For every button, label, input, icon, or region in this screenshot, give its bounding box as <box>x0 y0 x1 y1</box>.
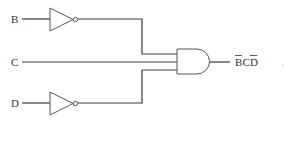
input-label-b: B <box>11 13 18 25</box>
output-label-d: D <box>250 56 258 68</box>
and-gate-icon <box>177 49 209 74</box>
output-label-c: C <box>243 56 250 68</box>
output-label: B C D <box>235 56 258 69</box>
not-gate-b-icon <box>50 8 73 31</box>
logic-circuit-diagram: B C D B C D <box>0 0 286 141</box>
not-gate-d-icon <box>50 92 73 115</box>
inversion-bubble-d-icon <box>73 101 77 105</box>
output-label-b: B <box>235 56 242 68</box>
b-not-output-wire <box>78 19 177 54</box>
input-label-d: D <box>11 97 19 109</box>
inversion-bubble-b-icon <box>73 17 77 21</box>
b-inverter-path <box>22 8 177 54</box>
d-inverter-path <box>22 70 177 115</box>
d-not-output-wire <box>78 70 177 103</box>
input-label-c: C <box>11 56 18 68</box>
